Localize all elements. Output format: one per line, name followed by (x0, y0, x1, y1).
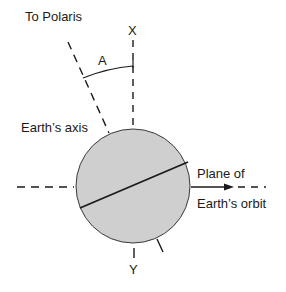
arrowhead-icon (224, 184, 234, 191)
earths-orbit-label: Earth’s orbit (197, 197, 266, 210)
earth-axis-bottom (157, 239, 163, 252)
to-polaris-label: To Polaris (25, 10, 82, 23)
plane-of-label: Plane of (197, 167, 245, 180)
earth-tilt-diagram (0, 0, 286, 292)
y-label: Y (129, 263, 138, 276)
angle-a-arc (83, 66, 133, 78)
angle-a-label: A (98, 54, 107, 67)
earths-axis-label: Earth’s axis (21, 121, 88, 134)
x-label: X (128, 24, 137, 37)
